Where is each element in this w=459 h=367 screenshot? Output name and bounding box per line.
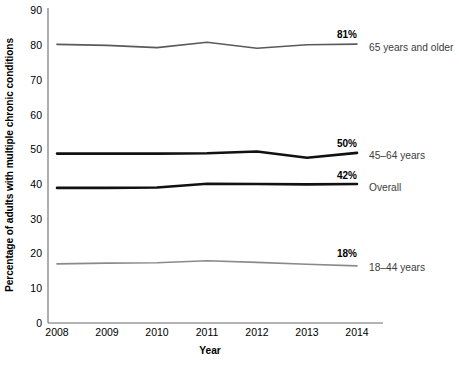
series-label-18-44: 18–44 years bbox=[369, 262, 425, 273]
series-line-65-plus bbox=[57, 42, 357, 48]
series-label-overall: Overall bbox=[369, 182, 401, 193]
x-tick-label-2011: 2011 bbox=[185, 327, 229, 338]
x-tick-label-2012: 2012 bbox=[235, 327, 279, 338]
series-line-18-44 bbox=[57, 261, 357, 266]
x-tick-label-2013: 2013 bbox=[285, 327, 329, 338]
series-value-45-64: 50% bbox=[337, 138, 357, 149]
x-tick-label-2010: 2010 bbox=[135, 327, 179, 338]
x-axis-title: Year bbox=[55, 345, 365, 356]
x-tick-label-2014: 2014 bbox=[335, 327, 379, 338]
series-value-18-44: 18% bbox=[337, 248, 357, 259]
chart-figure: Percentage of adults with multiple chron… bbox=[0, 0, 459, 367]
series-label-45-64: 45–64 years bbox=[369, 150, 425, 161]
series-value-overall: 42% bbox=[337, 170, 357, 181]
x-tick-label-2008: 2008 bbox=[35, 327, 79, 338]
series-line-overall bbox=[57, 184, 357, 188]
series-line-45-64 bbox=[57, 152, 357, 158]
series-value-65-plus: 81% bbox=[337, 29, 357, 40]
x-tick-label-2009: 2009 bbox=[85, 327, 129, 338]
series-label-65-plus: 65 years and older bbox=[369, 42, 453, 53]
